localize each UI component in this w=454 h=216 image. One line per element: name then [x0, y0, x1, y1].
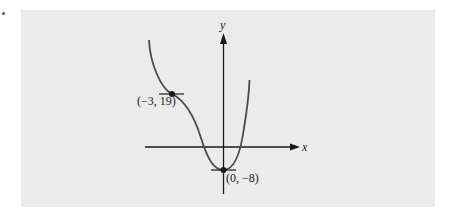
y-axis-label: y — [219, 18, 226, 32]
x-axis-label: x — [301, 140, 308, 154]
x-axis-arrow-icon — [290, 144, 300, 151]
y-axis-arrow-icon — [220, 33, 227, 44]
function-graph: x y (−3, 19) (0, −8) — [0, 0, 454, 216]
point-a-label: (−3, 19) — [137, 94, 176, 108]
point-b-label: (0, −8) — [226, 171, 259, 185]
